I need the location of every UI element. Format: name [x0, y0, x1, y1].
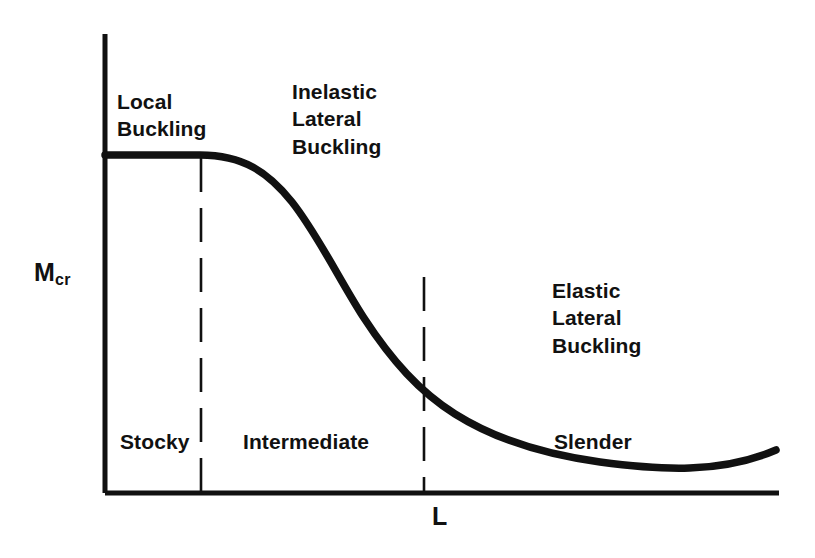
chart-plot-area [0, 0, 815, 558]
y-axis-label: Mcr [34, 256, 71, 289]
y-axis-label-subscript: cr [55, 271, 71, 288]
annotation-local-buckling: Local Buckling [117, 88, 206, 143]
y-axis-label-main: M [34, 258, 55, 286]
figure-canvas: Mcr L Local Buckling Inelastic Lateral B… [0, 0, 815, 558]
annotation-elastic-lateral-buckling: Elastic Lateral Buckling [552, 277, 641, 359]
annotation-inelastic-lateral-buckling: Inelastic Lateral Buckling [292, 78, 381, 160]
zone-label-slender: Slender [554, 428, 632, 455]
x-axis-label: L [432, 500, 447, 533]
mcr-capacity-curve [105, 155, 776, 468]
zone-label-intermediate: Intermediate [243, 428, 369, 455]
zone-label-stocky: Stocky [120, 428, 189, 455]
